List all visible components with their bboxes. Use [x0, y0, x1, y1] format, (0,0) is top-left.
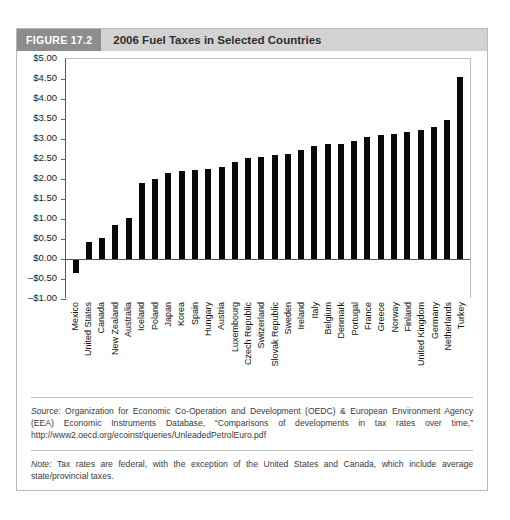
- y-tick-label: $3.00: [33, 132, 57, 143]
- bar-slot: [295, 59, 308, 299]
- bar-slot: [268, 59, 281, 299]
- x-tick-label: Korea: [176, 302, 186, 326]
- y-tick-label: $0.00: [33, 252, 57, 263]
- x-label-slot: Netherlands: [441, 298, 454, 408]
- x-label-slot: Portugal: [348, 298, 361, 408]
- plot-area: $5.00$4.50$4.00$3.50$3.00$2.50$2.00$1.50…: [17, 51, 487, 436]
- bar-slot: [361, 59, 374, 299]
- x-label-slot: Poland: [148, 298, 161, 408]
- bar-slot: [308, 59, 321, 299]
- x-tick-label: Denmark: [336, 302, 346, 339]
- caption-block: Source: Organization for Economic Co-Ope…: [17, 397, 487, 490]
- x-tick-label: Germany: [430, 302, 440, 339]
- x-tick-label: Norway: [390, 302, 400, 333]
- bar: [457, 77, 463, 259]
- bar-slot: [202, 59, 215, 299]
- x-label-slot: Iceland: [135, 298, 148, 408]
- x-label-slot: Korea: [175, 298, 188, 408]
- x-tick-label: Canada: [96, 302, 106, 334]
- x-label-slot: New Zealand: [108, 298, 121, 408]
- caption-divider-top: [31, 397, 473, 398]
- bar-slot: [281, 59, 294, 299]
- bar: [152, 179, 158, 259]
- x-tick-label: Hungary: [203, 302, 213, 336]
- bar-slot: [241, 59, 254, 299]
- chart-axes: $5.00$4.50$4.00$3.50$3.00$2.50$2.00$1.50…: [65, 58, 471, 298]
- figure-container: FIGURE 17.2 2006 Fuel Taxes in Selected …: [16, 28, 488, 491]
- bar-slot: [255, 59, 268, 299]
- zero-baseline: [66, 259, 470, 260]
- bar: [192, 170, 198, 259]
- x-label-slot: United Kingdom: [415, 298, 428, 408]
- x-label-slot: Hungary: [201, 298, 214, 408]
- source-text: Organization for Economic Co-Operation a…: [31, 406, 473, 440]
- bar-series: [66, 59, 470, 299]
- bar: [232, 162, 238, 259]
- bar: [139, 183, 145, 259]
- bar-slot: [374, 59, 387, 299]
- x-tick-label: Austria: [216, 302, 226, 330]
- bar: [179, 171, 185, 259]
- bar-slot: [149, 59, 162, 299]
- bar: [404, 132, 410, 259]
- bar-slot: [109, 59, 122, 299]
- bar: [272, 155, 278, 259]
- bar-slot: [175, 59, 188, 299]
- x-label-slot: Sweden: [281, 298, 294, 408]
- bar: [219, 167, 225, 259]
- y-tick-label: $2.00: [33, 172, 57, 183]
- bar: [351, 141, 357, 259]
- figure-title: 2006 Fuel Taxes in Selected Countries: [101, 29, 321, 51]
- bar: [86, 242, 92, 259]
- x-label-slot: Mexico: [68, 298, 81, 408]
- bar: [285, 154, 291, 259]
- x-label-slot: Austria: [215, 298, 228, 408]
- bar-slot: [334, 59, 347, 299]
- y-tick-label: $5.00: [33, 52, 57, 63]
- x-tick-label: Greece: [376, 302, 386, 332]
- bar-slot: [162, 59, 175, 299]
- x-label-slot: Turkey: [455, 298, 468, 408]
- x-tick-label: Netherlands: [443, 302, 453, 351]
- x-tick-label: Czech Republic: [243, 302, 253, 365]
- x-tick-label: Sweden: [283, 302, 293, 335]
- bar-slot: [69, 59, 82, 299]
- x-tick-label: France: [363, 302, 373, 330]
- y-tick-label: $0.50: [33, 232, 57, 243]
- x-label-slot: United States: [81, 298, 94, 408]
- x-tick-label: Luxembourg: [230, 302, 240, 352]
- bar-slot: [387, 59, 400, 299]
- bar-slot: [321, 59, 334, 299]
- x-tick-label: Ireland: [296, 302, 306, 330]
- note-text: Tax rates are federal, with the exceptio…: [31, 459, 473, 481]
- y-tick-label: –$0.50: [28, 272, 57, 283]
- x-label-slot: Czech Republic: [241, 298, 254, 408]
- bar: [258, 157, 264, 259]
- y-tick-label: $1.00: [33, 212, 57, 223]
- bar-slot: [401, 59, 414, 299]
- bar-slot: [348, 59, 361, 299]
- bar: [325, 144, 331, 259]
- bar: [364, 137, 370, 259]
- x-label-slot: Denmark: [335, 298, 348, 408]
- figure-number-tag: FIGURE 17.2: [17, 29, 101, 51]
- bar: [205, 169, 211, 259]
- x-label-slot: Germany: [428, 298, 441, 408]
- x-label-slot: Canada: [95, 298, 108, 408]
- x-tick-label: Iceland: [136, 302, 146, 331]
- y-tick-label: $4.50: [33, 72, 57, 83]
- source-label: Source:: [31, 406, 61, 416]
- bar-slot: [188, 59, 201, 299]
- x-tick-label: Slovak Republic: [270, 302, 280, 367]
- bar: [391, 134, 397, 259]
- x-label-slot: Belgium: [321, 298, 334, 408]
- bar: [311, 146, 317, 259]
- bar: [338, 144, 344, 259]
- x-tick-label: Spain: [190, 302, 200, 325]
- x-tick-label: Finland: [403, 302, 413, 332]
- y-tick-label: $4.00: [33, 92, 57, 103]
- bar: [112, 225, 118, 259]
- x-label-slot: Spain: [188, 298, 201, 408]
- x-label-slot: Japan: [161, 298, 174, 408]
- x-tick-label: Turkey: [456, 302, 466, 329]
